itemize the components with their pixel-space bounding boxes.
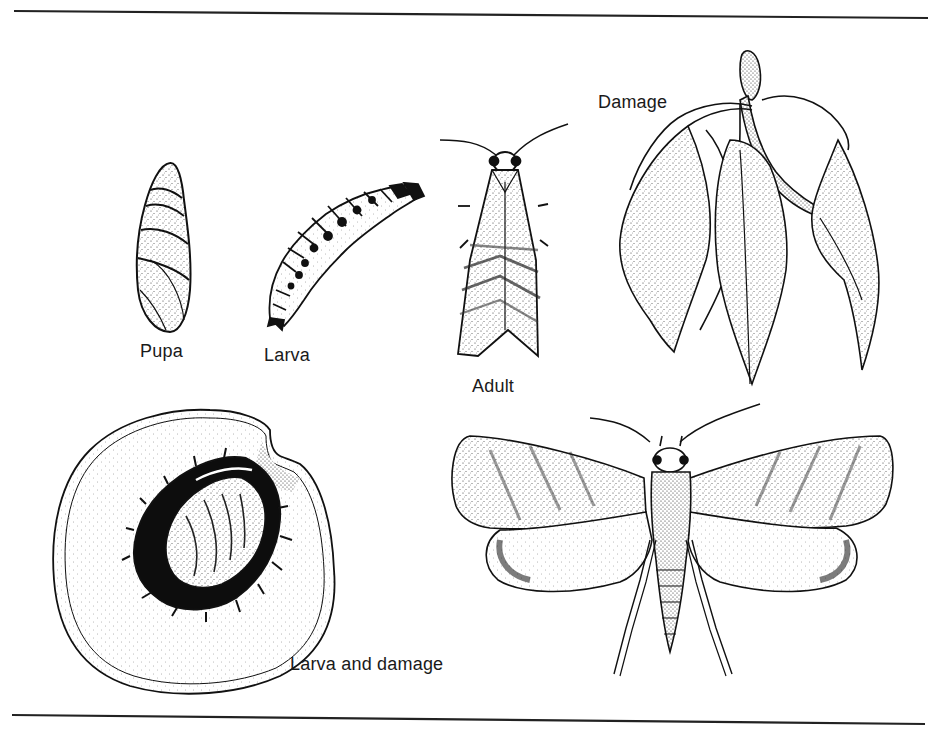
label-pupa: Pupa — [140, 341, 183, 362]
label-adult: Adult — [472, 376, 514, 397]
peach-cross-section-illustration-icon — [53, 410, 334, 694]
label-larva: Larva — [264, 345, 310, 366]
label-larva-and-damage: Larva and damage — [290, 654, 443, 675]
label-damage: Damage — [598, 92, 667, 113]
larva-illustration-icon — [268, 183, 424, 330]
pupa-illustration-icon — [137, 163, 191, 332]
illustration-layer — [0, 0, 949, 734]
bottom-rule — [12, 715, 925, 724]
top-rule — [14, 11, 928, 18]
figure-canvas: Pupa Larva Adult Damage Larva and damage — [0, 0, 949, 734]
moth-spread-wings-illustration-icon — [452, 404, 893, 676]
moth-resting-illustration-icon — [440, 124, 568, 356]
